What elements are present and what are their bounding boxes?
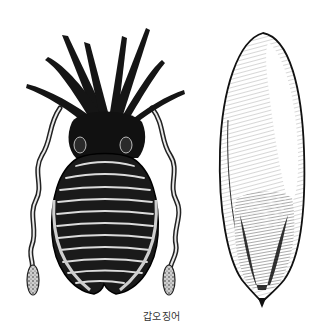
tentacle-club-left [27, 265, 39, 295]
cuttlefish-figure [26, 28, 185, 295]
tentacle-club-right [163, 265, 175, 295]
cuttlefish-illustration [0, 0, 323, 335]
figure-caption: 갑오징어 [0, 308, 323, 323]
eye-right [120, 137, 132, 153]
eye-left [74, 137, 86, 153]
cuttlebone-figure [220, 33, 305, 308]
cuttlebone-tip [258, 298, 266, 308]
